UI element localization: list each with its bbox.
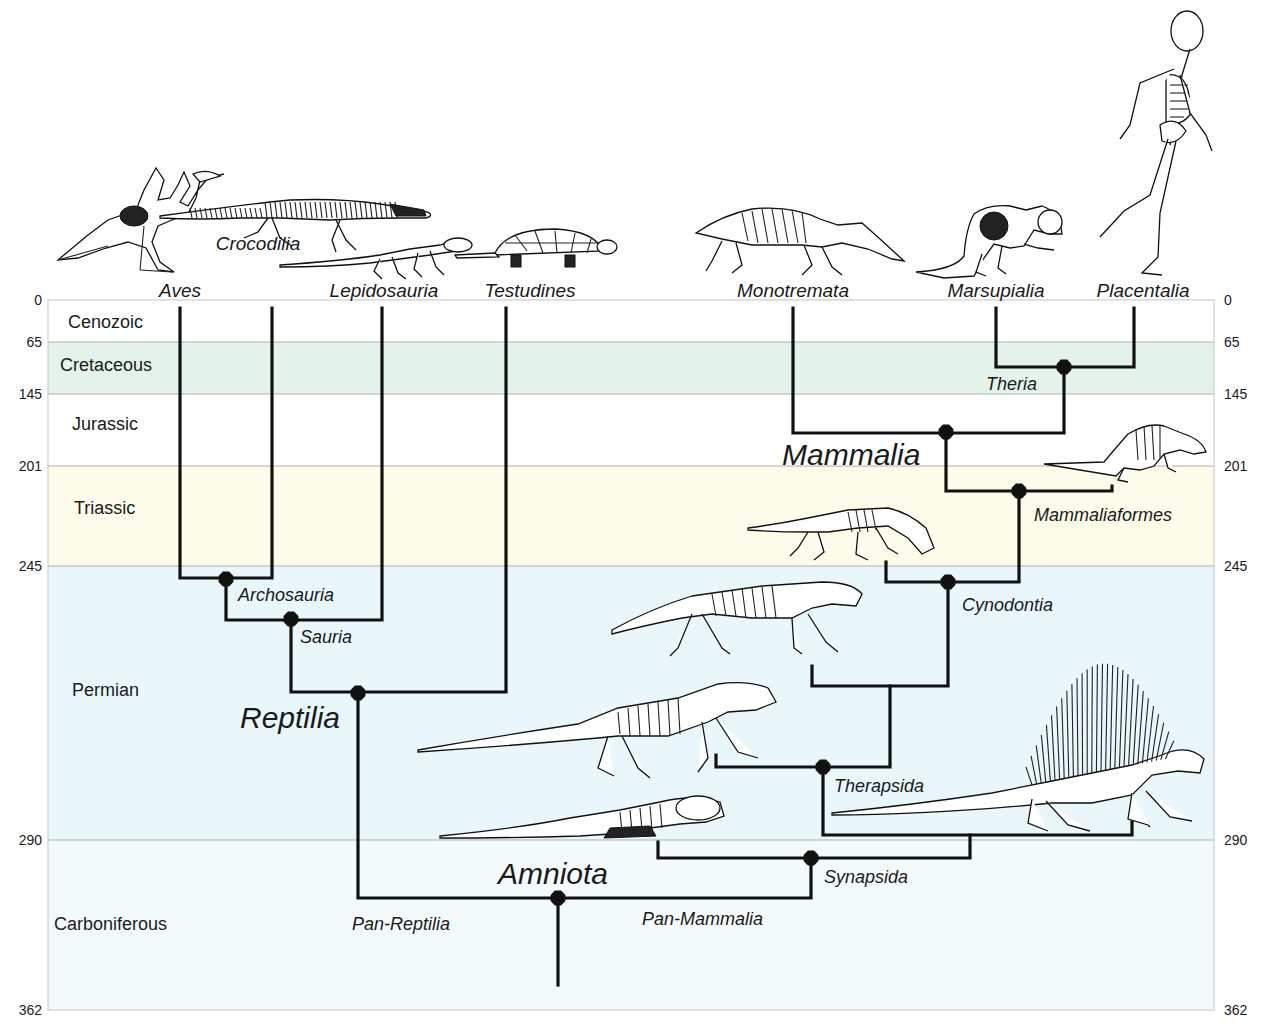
band-cenozoic <box>48 300 1214 342</box>
node-reptilia-icon <box>351 686 366 701</box>
clade-label-synapsida: Synapsida <box>824 867 908 887</box>
node-archosauria-icon <box>219 572 234 587</box>
node-cynodontia-icon <box>941 575 956 590</box>
age-tick-right: 65 <box>1224 334 1240 350</box>
node-mammaliaformes-icon <box>1012 484 1027 499</box>
age-tick-left: 65 <box>26 334 42 350</box>
clade-label-cynodontia: Cynodontia <box>962 595 1053 615</box>
taxon-label-monotremata: Monotremata <box>737 280 849 301</box>
age-tick-right: 362 <box>1224 1002 1248 1018</box>
age-tick-left: 145 <box>19 386 43 402</box>
age-axis-right: 065145201245290362 <box>1224 292 1248 1018</box>
taxon-label-aves: Aves <box>158 280 201 301</box>
age-tick-left: 0 <box>34 292 42 308</box>
age-tick-right: 245 <box>1224 558 1248 574</box>
phylogeny-figure: 065145201245290362 065145201245290362 Ce… <box>0 0 1264 1033</box>
placentalia-skeleton-icon <box>1100 11 1212 275</box>
age-tick-left: 362 <box>19 1002 43 1018</box>
node-amniota-icon <box>551 891 566 906</box>
clade-label-pan-reptilia: Pan-Reptilia <box>352 914 450 934</box>
clade-label-reptilia: Reptilia <box>240 701 340 734</box>
age-axis-left: 065145201245290362 <box>19 292 43 1018</box>
clade-label-mammalia: Mammalia <box>782 438 920 471</box>
clade-label-sauria: Sauria <box>300 627 352 647</box>
node-mammalia-icon <box>939 425 954 440</box>
lepidosauria-skeleton-icon <box>280 238 472 279</box>
band-jurassic <box>48 394 1214 466</box>
taxon-label-crocodilia: Crocodilia <box>216 233 300 254</box>
node-synapsida-icon <box>804 851 819 866</box>
testudines-skeleton-icon <box>455 229 617 267</box>
age-tick-right: 145 <box>1224 386 1248 402</box>
age-tick-right: 0 <box>1224 292 1232 308</box>
period-label-permian: Permian <box>72 680 139 700</box>
age-tick-right: 201 <box>1224 458 1248 474</box>
marsupialia-skeleton-icon <box>916 206 1062 278</box>
band-carboniferous <box>48 840 1214 1010</box>
node-sauria-icon <box>284 612 299 627</box>
monotremata-skeleton-icon <box>696 208 904 275</box>
period-label-jurassic: Jurassic <box>72 414 138 434</box>
period-label-cretaceous: Cretaceous <box>60 355 152 375</box>
period-label-carboniferous: Carboniferous <box>54 914 167 934</box>
period-label-triassic: Triassic <box>74 498 135 518</box>
age-tick-left: 245 <box>19 558 43 574</box>
taxon-label-marsupialia: Marsupialia <box>947 280 1044 301</box>
clade-label-archosauria: Archosauria <box>237 585 334 605</box>
node-theria-icon <box>1057 360 1072 375</box>
geologic-period-bands <box>48 300 1214 1010</box>
clade-label-amniota: Amniota <box>496 857 608 890</box>
age-tick-left: 201 <box>19 458 43 474</box>
taxon-label-lepidosauria: Lepidosauria <box>330 280 439 301</box>
age-tick-left: 290 <box>19 832 43 848</box>
phylogeny-svg: 065145201245290362 065145201245290362 Ce… <box>0 0 1264 1033</box>
taxon-label-testudines: Testudines <box>484 280 576 301</box>
clade-label-mammaliaformes: Mammaliaformes <box>1034 505 1172 525</box>
period-label-cenozoic: Cenozoic <box>68 312 143 332</box>
node-therapsida-icon <box>816 760 831 775</box>
age-tick-right: 290 <box>1224 832 1248 848</box>
aves-skeleton-icon <box>58 168 224 272</box>
clade-label-pan-mammalia: Pan-Mammalia <box>642 909 763 929</box>
clade-label-theria: Theria <box>986 374 1037 394</box>
taxon-label-placentalia: Placentalia <box>1097 280 1190 301</box>
clade-label-therapsida: Therapsida <box>834 776 924 796</box>
